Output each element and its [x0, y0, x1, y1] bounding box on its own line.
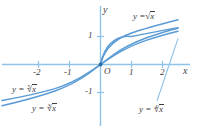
curve-label-sqrt-lhs: y = — [133, 11, 145, 21]
curve-label-fourth-index: 4 — [155, 104, 158, 110]
curve-label-fifth: y =5√x — [12, 84, 37, 94]
curve-label-sqrt: y =√x — [133, 11, 155, 21]
curve-label-fourth-lhs: y = — [139, 104, 151, 114]
y-tick-label--1: -1 — [85, 87, 93, 96]
curve-label-cbrt-index: 3 — [48, 103, 51, 109]
x-tick-label--1: -1 — [64, 68, 72, 77]
curve-label-fourth: y =4√x — [139, 104, 164, 114]
curve-label-fourth-arg: x — [159, 104, 164, 114]
x-tick-label--2: -2 — [33, 68, 41, 77]
y-axis-label: y — [103, 5, 107, 15]
curve-label-fifth-lhs: y = — [12, 84, 24, 94]
curve-label-cbrt-arg: x — [52, 103, 57, 113]
curve-label-fifth-arg: x — [32, 84, 37, 94]
x-tick-label-1: 1 — [129, 68, 134, 77]
curve-label-cbrt: y =3√x — [32, 103, 57, 113]
curve-fourth-root-x — [101, 28, 179, 65]
x-axis-label: x — [183, 66, 187, 76]
curve-label-sqrt-arg: x — [150, 11, 155, 21]
origin-label: O — [104, 67, 111, 76]
curve-label-fifth-index: 5 — [28, 84, 31, 90]
x-tick-label-2: 2 — [160, 68, 165, 77]
plot-canvas — [0, 0, 198, 130]
origin-point — [99, 63, 103, 67]
root-functions-figure: -2 -1 1 2 1 -1 O x y y =√x y =5√x y =3√x… — [0, 0, 198, 130]
curve-label-cbrt-lhs: y = — [32, 103, 44, 113]
y-tick-label-1: 1 — [88, 31, 93, 40]
